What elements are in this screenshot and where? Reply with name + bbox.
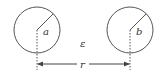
gap-label-epsilon: ε — [80, 38, 85, 49]
circle-a: a — [14, 7, 60, 70]
distance-arrow: r — [38, 59, 129, 70]
radius-label-a: a — [43, 26, 49, 37]
diagram-canvas: a b ε r — [0, 0, 160, 77]
radius-label-b: b — [136, 26, 142, 37]
distance-label-r: r — [80, 59, 86, 70]
circle-b: b — [107, 7, 153, 70]
